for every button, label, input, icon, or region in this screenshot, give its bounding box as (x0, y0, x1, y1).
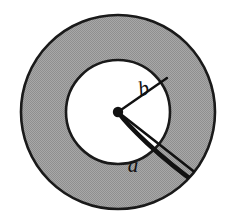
annulus-crack-diagram: b a (0, 0, 236, 224)
center-dot (113, 107, 123, 117)
figure-container: b a (0, 0, 236, 224)
label-a: a (128, 153, 139, 177)
